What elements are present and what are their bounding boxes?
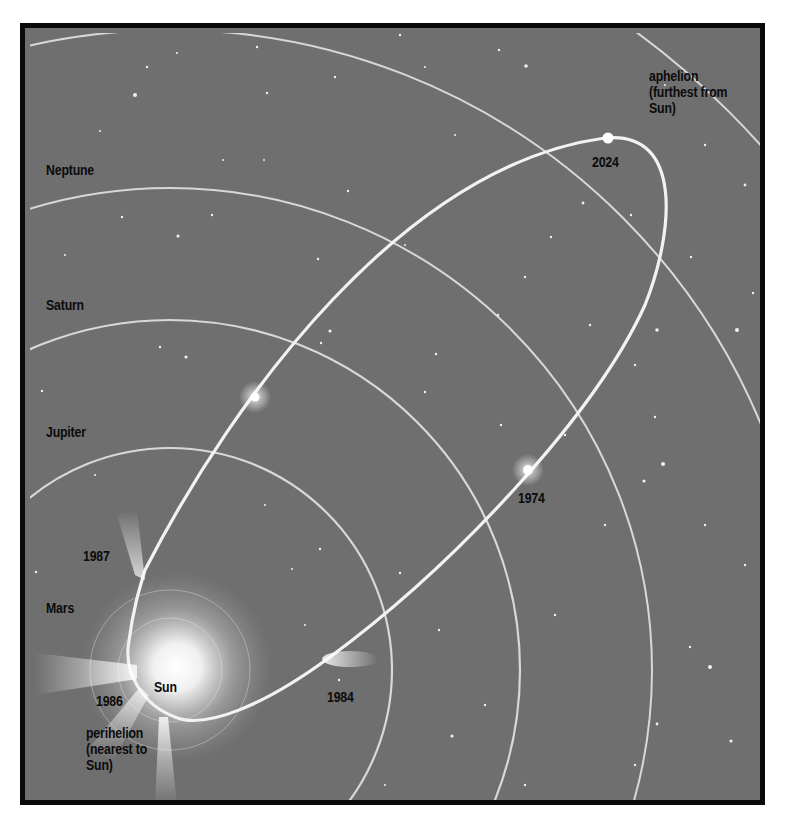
label-perihelion: perihelion (nearest to Sun) <box>86 725 147 773</box>
label-aphelion: aphelion (furthest from Sun) <box>649 68 727 116</box>
label-saturn: Saturn <box>46 297 84 313</box>
marker-1974 <box>523 465 533 475</box>
marker-unlabeled <box>251 393 260 402</box>
label-year-1986: 1986 <box>96 693 123 709</box>
label-year-2024: 2024 <box>592 154 619 170</box>
label-year-1984: 1984 <box>327 689 354 705</box>
label-sun: Sun <box>154 679 177 695</box>
label-jupiter: Jupiter <box>46 424 86 440</box>
label-year-1987: 1987 <box>83 548 110 564</box>
label-year-1974: 1974 <box>518 490 545 506</box>
marker-2024 <box>603 133 614 144</box>
diagram-frame: Neptune Saturn Jupiter Mars Sun aphelion… <box>20 23 765 805</box>
label-neptune: Neptune <box>46 162 94 178</box>
orbit-diagram <box>25 28 765 805</box>
label-mars: Mars <box>46 600 74 616</box>
